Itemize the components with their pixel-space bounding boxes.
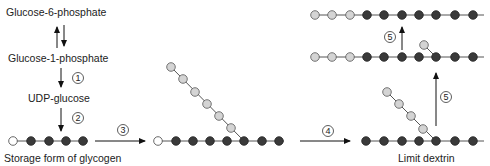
step-number: 1 (75, 73, 80, 83)
label-glucose-6-phosphate: Glucose-6-phosphate (6, 6, 107, 18)
storage-glycogen-chain (9, 137, 88, 146)
label-udp-glucose: UDP-glucose (28, 92, 90, 104)
step-number: 3 (120, 125, 125, 135)
step-number: 4 (325, 126, 330, 136)
extended-glycogen-chain (154, 63, 284, 146)
label-limit-dextrin: Limit dextrin (398, 152, 455, 164)
step-number: 5 (387, 32, 392, 42)
step-1-arrow: 1 (61, 68, 84, 87)
step-5-arrow-upper: 5 (385, 27, 403, 50)
glycogen-pathway-diagram: Glucose-6-phosphate Glucose-1-phosphate … (0, 0, 490, 166)
step-3-arrow: 3 (95, 125, 145, 142)
step-2-arrow: 2 (61, 108, 84, 131)
step-number: 5 (443, 92, 448, 102)
debranched-chain-middle (311, 41, 484, 62)
step-number: 2 (75, 113, 80, 123)
label-glucose-1-phosphate: Glucose-1-phosphate (8, 52, 109, 64)
step-4-arrow: 4 (300, 126, 350, 142)
step-5-arrow-lower: 5 (436, 73, 452, 126)
linear-chain-top (311, 11, 484, 20)
limit-dextrin-chain (362, 88, 484, 146)
reversible-arrow (57, 25, 64, 48)
label-storage-glycogen: Storage form of glycogen (4, 152, 121, 164)
